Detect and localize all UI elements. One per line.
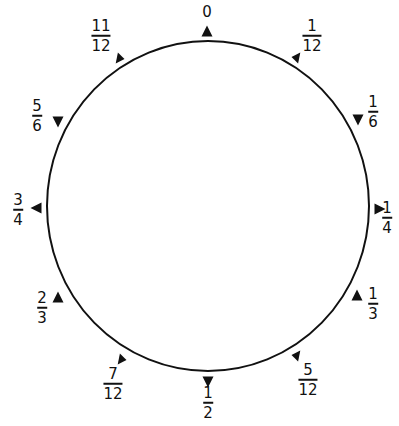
numerator: 7 (108, 367, 118, 382)
numerator: 1 (382, 201, 392, 216)
marker-triangle-icon (292, 53, 301, 64)
denominator: 4 (13, 212, 23, 227)
marker-group (31, 26, 386, 388)
marker-triangle-icon (202, 26, 213, 37)
circle-svg (0, 0, 399, 426)
denominator: 3 (37, 310, 47, 325)
marker-triangle-icon (53, 292, 64, 303)
numerator: 1 (368, 287, 378, 302)
fraction-label-7-12: 712 (103, 367, 122, 402)
denominator: 12 (91, 38, 110, 53)
numerator: 5 (32, 99, 42, 114)
numerator: 2 (37, 291, 47, 306)
fraction-label-3-4: 34 (13, 193, 23, 228)
denominator: 2 (203, 405, 213, 420)
denominator: 3 (368, 306, 378, 321)
denominator: 6 (32, 118, 42, 133)
marker-triangle-icon (292, 351, 301, 362)
fraction-label-1-4: 14 (382, 201, 392, 236)
denominator: 12 (302, 38, 321, 53)
numerator: 1 (368, 95, 378, 110)
marker-triangle-icon (118, 354, 127, 365)
fraction-label-11-12: 1112 (91, 19, 110, 54)
denominator: 12 (103, 386, 122, 401)
numerator: 11 (91, 19, 110, 34)
numerator: 3 (13, 193, 23, 208)
marker-triangle-icon (53, 117, 64, 128)
fraction-label-1-2: 12 (203, 386, 213, 421)
marker-triangle-icon (31, 203, 42, 214)
fraction-label-5-6: 56 (32, 99, 42, 134)
marker-triangle-icon (352, 290, 363, 301)
fraction-label-1-6: 16 (368, 95, 378, 130)
fraction-label-2-3: 23 (37, 291, 47, 326)
denominator: 12 (298, 382, 317, 397)
unit-circle (47, 41, 369, 371)
marker-triangle-icon (116, 53, 125, 64)
marker-triangle-icon (353, 115, 364, 126)
fraction-label-1-3: 13 (368, 287, 378, 322)
denominator: 4 (382, 220, 392, 235)
fraction-label-5-12: 512 (298, 363, 317, 398)
numerator: 1 (307, 19, 317, 34)
fraction-circle-diagram: 0112161413512127122334561112 (0, 0, 399, 426)
denominator: 6 (368, 114, 378, 129)
numerator: 1 (203, 386, 213, 401)
fraction-label-1-12: 112 (302, 19, 321, 54)
label-0: 0 (202, 3, 212, 21)
numerator: 5 (303, 363, 313, 378)
